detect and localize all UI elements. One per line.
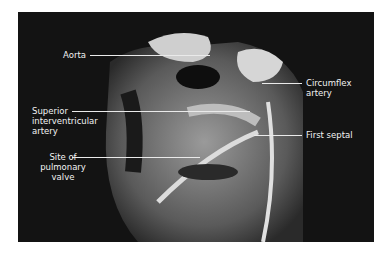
label-circumflex-artery: Circumflex artery (306, 78, 366, 98)
leader-line-aorta (90, 55, 210, 56)
label-aorta: Aorta (40, 50, 86, 60)
anatomy-figure-frame: Aorta Circumflex artery Superior interve… (18, 12, 374, 242)
label-first-septal: First septal (306, 130, 370, 140)
leader-line-first-septal (254, 135, 302, 136)
leader-line-superior (72, 111, 250, 112)
leader-line-pulmonary (72, 157, 200, 158)
leader-line-circumflex (262, 83, 302, 84)
